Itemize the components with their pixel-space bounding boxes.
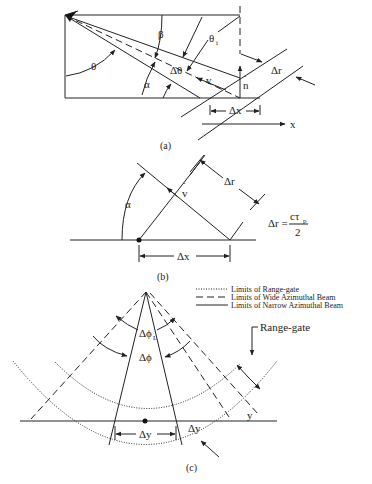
- panel-a-caption: (a): [160, 140, 171, 152]
- delta-x-label: Δx: [229, 104, 242, 116]
- panel-b: α v ˆ Δr Δx Δr = cτ p 2 (b): [70, 155, 308, 283]
- alpha-label: α: [144, 78, 150, 90]
- delta-r-label: Δr: [271, 64, 282, 76]
- delta-phi-l-subscript: L: [153, 334, 157, 342]
- y-axis-label: y: [247, 409, 253, 421]
- beta-label: β: [158, 28, 164, 40]
- panel-a: θ β θ i Δθ α v ˆ n ˆ Δr Δx x (a): [65, 6, 315, 152]
- range-gate-line-2: [198, 66, 303, 140]
- narrow-beam-left: [109, 292, 146, 445]
- legend-label-narrow-beam: Limits of Narrow Azimuthal Beam: [231, 301, 344, 310]
- delta-phi-arrow-left: [93, 336, 127, 356]
- wavefront-line-1-ext: [190, 155, 205, 175]
- delta-r-arrow-right: [296, 77, 315, 85]
- diagram-canvas: θ β θ i Δθ α v ˆ n ˆ Δr Δx x (a): [0, 0, 372, 484]
- delta-phi-l-label: Δϕ: [139, 327, 152, 339]
- panel-b-caption: (b): [157, 271, 169, 283]
- beam-center-dashed: [66, 16, 240, 98]
- equation-lhs: Δr =: [268, 217, 288, 229]
- wide-beam-left: [31, 292, 146, 419]
- wide-beam-right-inner: [146, 292, 231, 420]
- range-gate-inner-arc: [55, 362, 240, 409]
- theta-label: θ: [91, 60, 96, 72]
- delta-phi-l-arrow-right: [157, 318, 175, 330]
- alpha-arc-lower: [163, 84, 171, 98]
- wavefront-line-2: [230, 222, 243, 240]
- v-hat-arrow: [197, 78, 226, 90]
- delta-phi-arrow-right: [165, 341, 190, 357]
- delta-y-right-leader: [201, 441, 219, 457]
- theta-i-subscript: i: [216, 39, 218, 47]
- x-axis-label: x: [290, 118, 296, 130]
- delta-r-label: Δr: [224, 175, 235, 187]
- theta-i-leader: [218, 16, 240, 32]
- delta-r-ext-right: [250, 194, 265, 210]
- delta-r-arrow-right: [239, 189, 259, 204]
- panel-c: Limits of Range-gate Limits of Wide Azim…: [13, 285, 344, 474]
- range-gate-label: Range-gate: [260, 321, 310, 333]
- theta-i-label: θ: [209, 32, 214, 44]
- delta-r-arrow-left: [200, 160, 223, 178]
- delta-phi-label: Δϕ: [139, 351, 152, 363]
- equation-numerator: cτ: [290, 210, 300, 222]
- delta-r-arrow-left: [241, 54, 262, 62]
- narrow-beam-right: [146, 292, 182, 445]
- theta-i-arrow-2: [187, 40, 208, 71]
- target-dot: [143, 419, 148, 424]
- delta-x-label: Δx: [177, 250, 190, 262]
- range-gate-dim-arrow-up: [237, 365, 248, 377]
- equation-denominator: 2: [295, 226, 301, 238]
- panel-c-caption: (c): [186, 462, 197, 474]
- wide-beam-right-outer: [150, 293, 258, 414]
- legend: Limits of Range-gate Limits of Wide Azim…: [196, 285, 344, 310]
- delta-theta-label: Δθ: [170, 64, 182, 76]
- range-gate-leader: [252, 327, 258, 355]
- delta-y-label: Δy: [139, 428, 152, 440]
- delta-y-right-label: Δy: [188, 422, 201, 434]
- alpha-label: α: [125, 198, 131, 210]
- v-hat-line: [137, 163, 230, 240]
- delta-phi-l-arrow-left: [116, 316, 138, 330]
- delta-r-ext-left: [190, 155, 204, 172]
- theta-i-arrow-1: [183, 17, 202, 57]
